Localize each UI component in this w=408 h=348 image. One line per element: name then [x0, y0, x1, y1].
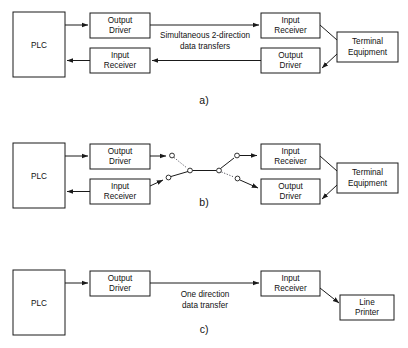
section-b-switch-blade-upper-left — [174, 158, 187, 169]
section-c-line-printer-label-1: Line — [359, 298, 375, 307]
section-b-output-driver-right-box: Output Driver — [261, 179, 320, 204]
section-c-input-receiver-label-1: Input — [281, 274, 300, 283]
section-a-terminal-equipment-box: Terminal Equipment — [337, 32, 398, 62]
section-b-input-receiver-right-box: Input Receiver — [261, 144, 320, 169]
section-c-line-printer-label-2: Printer — [355, 308, 379, 317]
section-a-input-receiver-right-box: Input Receiver — [261, 13, 320, 38]
section-a-output-driver-right-label-1: Output — [278, 51, 303, 60]
section-c-conn-input-receiver-to-line-printer — [320, 288, 339, 303]
section-a-flow-label-line1: Simultaneous 2-direction — [160, 31, 251, 40]
section-c-line-printer-box: Line Printer — [340, 295, 394, 320]
section-a-plc-box: PLC — [13, 12, 65, 77]
section-a-input-receiver-right-label-2: Receiver — [274, 26, 307, 35]
section-a-input-receiver-left-label-2: Receiver — [104, 61, 137, 70]
section-a-conn-terminal-to-output-driver — [322, 54, 337, 68]
section-b-terminal-equipment-label-1: Terminal — [352, 168, 383, 177]
section-b-input-receiver-right-label-2: Receiver — [274, 157, 307, 166]
section-c-caption: c) — [200, 323, 209, 335]
section-b-conn-input-receiver-to-contact — [150, 180, 163, 186]
section-b-output-driver-left-label-1: Output — [108, 147, 133, 156]
section-c-flow-label-line1: One direction — [181, 290, 230, 299]
section-b-switch-pivot-left[interactable] — [188, 168, 193, 173]
section-c-input-receiver-label-2: Receiver — [274, 284, 307, 293]
section-b-conn-contact-to-output-driver — [240, 180, 258, 188]
serial-communication-diagram: PLC Output Driver Input Receiver Input R… — [0, 0, 408, 348]
section-b-switch-contact-lower-left[interactable] — [166, 175, 171, 180]
section-a-plc-label: PLC — [31, 41, 47, 50]
section-b-output-driver-right-label-2: Driver — [280, 192, 302, 201]
section-b-switch-blade-lower-right — [222, 172, 235, 177]
section-b-output-driver-left-label-2: Driver — [109, 157, 131, 166]
section-b-switch-blade-lower-left — [171, 172, 188, 177]
section-a-output-driver-left-label-2: Driver — [109, 26, 131, 35]
section-a-conn-input-receiver-to-terminal — [320, 25, 337, 40]
section-b-conn-input-receiver-to-terminal — [320, 156, 337, 171]
section-b-terminal-equipment-box: Terminal Equipment — [337, 163, 398, 193]
section-b-switch-contact-lower-right[interactable] — [235, 176, 240, 181]
section-b-terminal-equipment-label-2: Equipment — [348, 179, 388, 188]
section-b-switch-contact-upper-left[interactable] — [170, 153, 175, 158]
section-a-output-driver-left-box: Output Driver — [90, 13, 150, 38]
section-b-output-driver-left-box: Output Driver — [90, 144, 150, 169]
section-c-plc-label: PLC — [31, 299, 47, 308]
section-b-output-driver-right-label-1: Output — [278, 182, 303, 191]
section-b-input-receiver-left-box: Input Receiver — [90, 179, 150, 204]
section-b-conn-terminal-to-output-driver — [322, 185, 337, 199]
section-b-input-receiver-left-label-2: Receiver — [104, 192, 137, 201]
section-a-terminal-equipment-label-1: Terminal — [352, 37, 383, 46]
section-a-flow-label-line2: data transfers — [180, 42, 230, 51]
section-a-output-driver-right-box: Output Driver — [261, 48, 320, 73]
section-c-output-driver-label-1: Output — [108, 274, 133, 283]
section-b-switch-blade-upper-right — [221, 158, 235, 169]
section-b-switch-pivot-right[interactable] — [217, 168, 222, 173]
section-b-input-receiver-left-label-1: Input — [111, 182, 130, 191]
section-c-input-receiver-box: Input Receiver — [261, 271, 320, 296]
section-b-input-receiver-right-label-1: Input — [281, 147, 300, 156]
diagram-canvas: PLC Output Driver Input Receiver Input R… — [0, 0, 408, 348]
section-c: PLC Output Driver Input Receiver Line Pr… — [13, 270, 394, 335]
section-b-switch-contact-upper-right[interactable] — [235, 153, 240, 158]
section-b-caption: b) — [199, 196, 208, 208]
section-a-output-driver-right-label-2: Driver — [280, 61, 302, 70]
section-b-plc-box: PLC — [13, 143, 65, 208]
section-a-input-receiver-left-label-1: Input — [111, 51, 130, 60]
section-a-input-receiver-right-label-1: Input — [281, 16, 300, 25]
section-a-output-driver-left-label-1: Output — [108, 16, 133, 25]
section-c-flow-label-line2: data transfer — [182, 301, 228, 310]
section-c-output-driver-label-2: Driver — [109, 284, 131, 293]
section-a: PLC Output Driver Input Receiver Input R… — [13, 12, 398, 106]
section-b-plc-label: PLC — [31, 172, 47, 181]
section-c-plc-box: PLC — [13, 270, 65, 335]
section-a-caption: a) — [199, 94, 208, 106]
section-a-input-receiver-left-box: Input Receiver — [90, 48, 150, 73]
section-b: PLC Output Driver Input Receiver Input R… — [13, 143, 398, 208]
section-a-terminal-equipment-label-2: Equipment — [348, 48, 388, 57]
section-c-output-driver-box: Output Driver — [90, 271, 150, 296]
